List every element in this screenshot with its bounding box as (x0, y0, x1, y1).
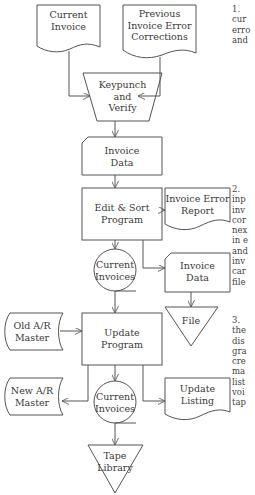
note-1: 1. cur erro and (232, 4, 250, 45)
note-3: 3. the dis gra cre ma list voi tap (232, 315, 247, 408)
tape-library-label: Tape Library (92, 450, 138, 473)
current-invoices-1-label: Current Invoices (94, 259, 136, 282)
current-invoices-2-label: Current Invoices (94, 391, 136, 414)
new-ar-master-label: New A/R Master (4, 385, 60, 408)
old-ar-master-label: Old A/R Master (4, 320, 60, 343)
edge-edit-to-data2 (143, 240, 165, 268)
edit-sort-label: Edit & Sort Program (82, 202, 162, 225)
update-program-label: Update Program (82, 327, 162, 350)
current-invoice-label: Current Invoice (37, 9, 100, 32)
edge-update-to-listing (143, 365, 165, 401)
prev-corrections-label: Previous Invoice Error Corrections (123, 8, 196, 43)
file-label: File (170, 315, 212, 327)
invoice-data-2-label: Invoice Data (165, 260, 230, 283)
note-2: 2. inp inv cor nex in e and inv car file (232, 184, 248, 287)
invoice-data-1-label: Invoice Data (82, 145, 162, 168)
update-listing-label: Update Listing (165, 383, 230, 406)
flowchart-canvas (0, 0, 255, 495)
file-shape (165, 307, 218, 346)
error-report-label: Invoice Error Report (165, 193, 230, 216)
edge-update-to-new-master (62, 365, 88, 401)
keypunch-label: Keypunch and Verify (83, 79, 162, 114)
